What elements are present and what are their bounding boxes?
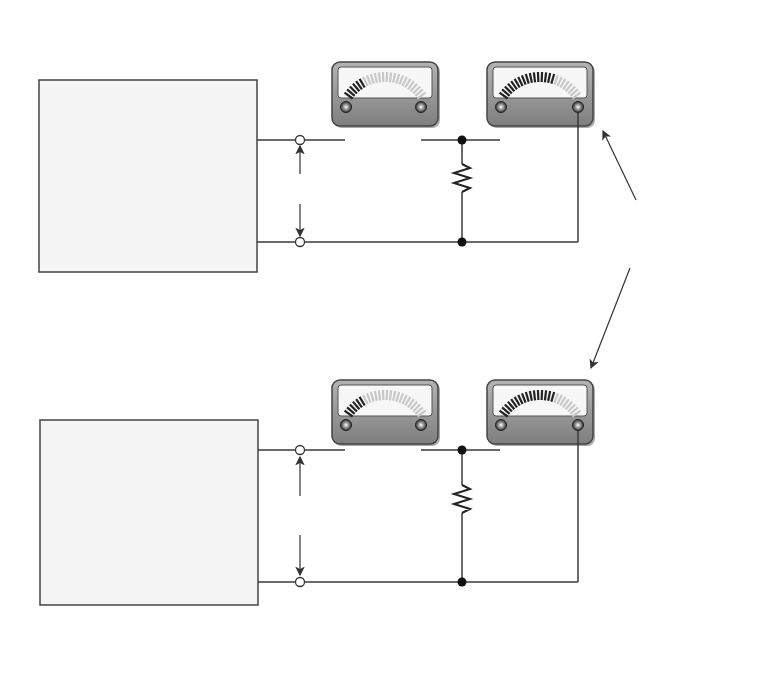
panel-b [40,380,595,605]
plus-jack [341,102,352,113]
thevenin-equivalent-box [40,420,258,605]
meter-tick [545,72,546,82]
meter-tick [390,390,391,400]
output-terminal-top [296,136,305,145]
meter-tick [534,390,535,400]
original-circuit-box [39,80,257,272]
minus-jack [573,102,584,113]
meter-tick [379,72,380,82]
meter-tick [534,72,535,82]
pointer-arrow-up [603,131,636,200]
junction-dot [458,578,467,587]
circuit-diagram [0,0,782,690]
output-terminal-bottom [296,578,305,587]
plus-jack [496,102,507,113]
load-resistor [454,485,470,513]
minus-jack [416,420,427,431]
minus-jack [573,420,584,431]
junction-dot [458,136,467,145]
junction-dot [458,446,467,455]
meter-tick [545,390,546,400]
pointer-arrow-down [591,268,630,368]
minus-jack [416,102,427,113]
plus-jack [341,420,352,431]
output-terminal-top [296,446,305,455]
load-resistor [454,164,470,192]
output-terminal-bottom [296,238,305,247]
meter-tick [379,390,380,400]
junction-dot [458,238,467,247]
meter-tick [390,72,391,82]
plus-jack [496,420,507,431]
